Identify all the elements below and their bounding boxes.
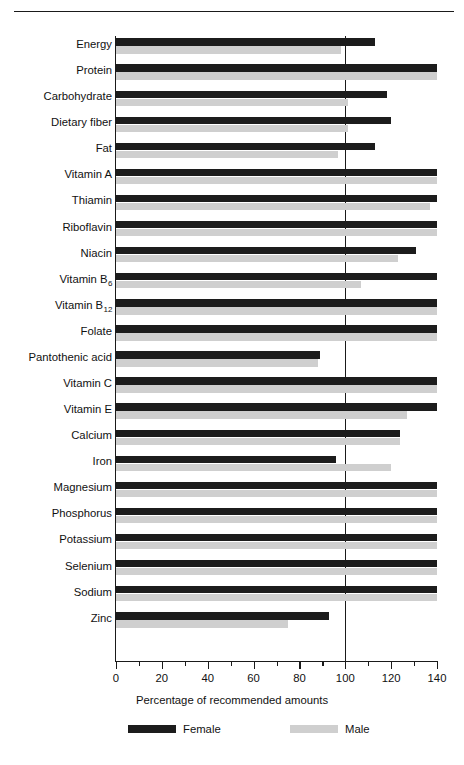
x-tick-major bbox=[345, 661, 346, 669]
category-label-vitamin-e: Vitamin E bbox=[0, 402, 112, 416]
chart-row: Magnesium bbox=[0, 479, 464, 505]
x-tick-major bbox=[162, 661, 163, 669]
x-tick-minor bbox=[277, 661, 278, 666]
chart-row: Carbohydrate bbox=[0, 88, 464, 114]
chart-row: Vitamin A bbox=[0, 166, 464, 192]
x-tick-label: 140 bbox=[428, 672, 447, 684]
chart-row: Riboflavin bbox=[0, 219, 464, 245]
bar-male bbox=[116, 46, 341, 53]
chart-row: Folate bbox=[0, 323, 464, 349]
bar-female bbox=[116, 117, 391, 124]
bar-male bbox=[116, 464, 391, 471]
bar-male bbox=[116, 411, 407, 418]
x-tick-minor bbox=[139, 661, 140, 666]
category-label-niacin: Niacin bbox=[0, 246, 112, 260]
bar-female bbox=[116, 195, 437, 202]
category-label-vitamin-b6: Vitamin B6 bbox=[0, 272, 112, 288]
bar-female bbox=[116, 273, 437, 280]
bar-female bbox=[116, 508, 437, 515]
bar-rows: EnergyProteinCarbohydrateDietary fiberFa… bbox=[0, 36, 464, 636]
category-label-magnesium: Magnesium bbox=[0, 480, 112, 494]
x-tick-label: 0 bbox=[113, 672, 119, 684]
legend-item-female: Female bbox=[128, 723, 221, 735]
bar-male bbox=[116, 255, 398, 262]
bar-female bbox=[116, 430, 400, 437]
category-label-vitamin-c: Vitamin C bbox=[0, 376, 112, 390]
category-label-calcium: Calcium bbox=[0, 428, 112, 442]
chart-row: Thiamin bbox=[0, 192, 464, 218]
chart-row: Vitamin B6 bbox=[0, 271, 464, 297]
legend-item-male: Male bbox=[290, 723, 370, 735]
bar-male bbox=[116, 151, 338, 158]
category-label-selenium: Selenium bbox=[0, 559, 112, 573]
bar-female bbox=[116, 221, 437, 228]
bar-male bbox=[116, 307, 437, 314]
category-label-dietary-fiber: Dietary fiber bbox=[0, 115, 112, 129]
bar-male bbox=[116, 359, 318, 366]
category-label-phosphorus: Phosphorus bbox=[0, 506, 112, 520]
category-label-vitamin-b12: Vitamin B12 bbox=[0, 298, 112, 314]
bar-male bbox=[116, 203, 430, 210]
category-label-iron: Iron bbox=[0, 454, 112, 468]
category-label-carbohydrate: Carbohydrate bbox=[0, 89, 112, 103]
bar-male bbox=[116, 177, 437, 184]
bar-male bbox=[116, 385, 437, 392]
x-tick-minor bbox=[231, 661, 232, 666]
x-tick-minor bbox=[322, 661, 323, 666]
bar-female bbox=[116, 91, 387, 98]
chart-row: Calcium bbox=[0, 427, 464, 453]
chart-row: Iron bbox=[0, 453, 464, 479]
bar-male bbox=[116, 620, 288, 627]
category-label-sodium: Sodium bbox=[0, 585, 112, 599]
chart-row: Zinc bbox=[0, 610, 464, 636]
chart-row: Selenium bbox=[0, 558, 464, 584]
category-label-folate: Folate bbox=[0, 324, 112, 338]
x-tick-minor bbox=[185, 661, 186, 666]
legend-label-female: Female bbox=[183, 723, 221, 735]
bar-female bbox=[116, 586, 437, 593]
category-label-pantothenic-acid: Pantothenic acid bbox=[0, 350, 112, 364]
x-tick-label: 80 bbox=[293, 672, 306, 684]
bar-male bbox=[116, 438, 400, 445]
x-tick-label: 20 bbox=[156, 672, 169, 684]
category-label-vitamin-a: Vitamin A bbox=[0, 167, 112, 181]
bar-male bbox=[116, 568, 437, 575]
bar-female bbox=[116, 38, 375, 45]
bar-male bbox=[116, 490, 437, 497]
chart-row: Phosphorus bbox=[0, 505, 464, 531]
chart-row: Fat bbox=[0, 140, 464, 166]
x-tick-minor bbox=[414, 661, 415, 666]
top-horizontal-rule bbox=[14, 11, 454, 12]
chart-row: Pantothenic acid bbox=[0, 349, 464, 375]
x-tick-major bbox=[208, 661, 209, 669]
bar-female bbox=[116, 351, 320, 358]
legend-label-male: Male bbox=[345, 723, 370, 735]
bar-female bbox=[116, 482, 437, 489]
chart-row: Potassium bbox=[0, 531, 464, 557]
x-tick-label: 100 bbox=[336, 672, 355, 684]
chart-row: Sodium bbox=[0, 584, 464, 610]
x-tick-major bbox=[116, 661, 117, 669]
bar-male bbox=[116, 72, 437, 79]
x-axis-label: Percentage of recommended amounts bbox=[0, 694, 464, 706]
bar-female bbox=[116, 169, 437, 176]
legend-swatch-female-icon bbox=[128, 725, 176, 733]
bar-male bbox=[116, 99, 348, 106]
x-tick-major bbox=[299, 661, 300, 669]
x-tick-label: 60 bbox=[247, 672, 260, 684]
bar-female bbox=[116, 403, 437, 410]
category-label-fat: Fat bbox=[0, 141, 112, 155]
x-tick-major bbox=[254, 661, 255, 669]
bar-female bbox=[116, 143, 375, 150]
chart-row: Niacin bbox=[0, 245, 464, 271]
bar-male bbox=[116, 542, 437, 549]
chart-row: Vitamin B12 bbox=[0, 297, 464, 323]
plot-area: EnergyProteinCarbohydrateDietary fiberFa… bbox=[0, 36, 464, 661]
x-tick-label: 40 bbox=[201, 672, 214, 684]
bar-male bbox=[116, 594, 437, 601]
nutrition-percentage-chart: EnergyProteinCarbohydrateDietary fiberFa… bbox=[0, 0, 464, 765]
chart-row: Vitamin E bbox=[0, 401, 464, 427]
legend-swatch-male-icon bbox=[290, 725, 338, 733]
category-label-thiamin: Thiamin bbox=[0, 193, 112, 207]
bar-male bbox=[116, 229, 437, 236]
